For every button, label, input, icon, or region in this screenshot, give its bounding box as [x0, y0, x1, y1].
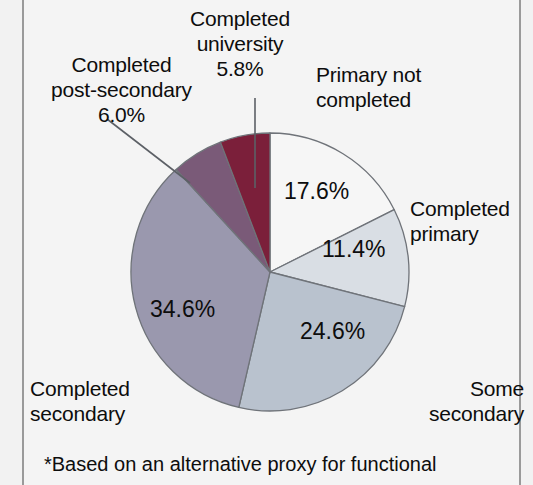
slice-label-some-secondary: Some secondary — [388, 376, 524, 426]
slice-value-completed-primary: 11.4% — [322, 236, 386, 262]
slice-label-completed-secondary: Completed secondary — [30, 376, 220, 426]
pie-chart — [130, 132, 410, 412]
slice-label-primary-not-completed: Primary not completed — [316, 62, 506, 112]
slice-value-some-secondary: 24.6% — [300, 318, 365, 344]
slice-label-completed-primary: Completed primary — [410, 196, 526, 246]
chart-footnote: *Based on an alternative proxy for funct… — [44, 452, 514, 476]
slice-label-completed-post-secondary: Completed post-secondary 6.0% — [14, 52, 229, 127]
slice-value-primary-not-completed: 17.6% — [284, 178, 349, 204]
scanned-chart-page: Completed university 5.8% Completed post… — [0, 0, 533, 485]
pie-chart-svg — [130, 132, 410, 412]
slice-value-completed-secondary: 34.6% — [150, 296, 215, 322]
